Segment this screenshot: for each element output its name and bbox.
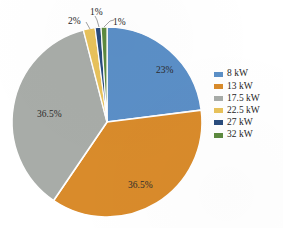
legend-item-17-5kw[interactable]: 17.5 kW xyxy=(214,92,282,104)
legend-item-8kw[interactable]: 8 kW xyxy=(214,68,282,80)
leader-line-22-5kw xyxy=(86,22,90,29)
pie-label-13kw: 36.5% xyxy=(128,180,153,190)
pie-callout-22-5kw: 2% xyxy=(68,16,81,26)
legend-swatch-27kw xyxy=(214,120,223,125)
pie-callout-32kw: 1% xyxy=(113,17,126,27)
pie-callout-27kw: 1% xyxy=(90,7,103,17)
legend-swatch-13kw xyxy=(214,84,223,89)
chart-legend: 8 kW 13 kW 17.5 kW 22.5 kW 27 kW 32 kW xyxy=(214,68,282,141)
legend-label-17-5kw: 17.5 kW xyxy=(227,94,260,104)
legend-item-32kw[interactable]: 32 kW xyxy=(214,129,282,141)
leader-line-27kw xyxy=(95,16,99,27)
pie-label-8kw: 23% xyxy=(156,65,174,75)
legend-item-27kw[interactable]: 27 kW xyxy=(214,117,282,129)
legend-label-13kw: 13 kW xyxy=(227,82,253,92)
legend-swatch-8kw xyxy=(214,72,223,77)
pie-slice-8kw[interactable] xyxy=(107,27,201,122)
legend-swatch-22-5kw xyxy=(214,108,223,113)
legend-label-27kw: 27 kW xyxy=(227,118,253,128)
pie-label-17-5kw: 36.5% xyxy=(37,109,62,119)
legend-swatch-17-5kw xyxy=(214,96,223,101)
legend-swatch-32kw xyxy=(214,133,223,138)
legend-item-13kw[interactable]: 13 kW xyxy=(214,80,282,92)
legend-item-22-5kw[interactable]: 22.5 kW xyxy=(214,105,282,117)
legend-label-32kw: 32 kW xyxy=(227,130,253,140)
legend-label-8kw: 8 kW xyxy=(227,69,248,79)
pie-chart-figure: 23% 36.5% 36.5% 2% 1% 1% 8 kW 13 kW 17.5… xyxy=(0,0,283,228)
legend-label-22-5kw: 22.5 kW xyxy=(227,106,260,116)
